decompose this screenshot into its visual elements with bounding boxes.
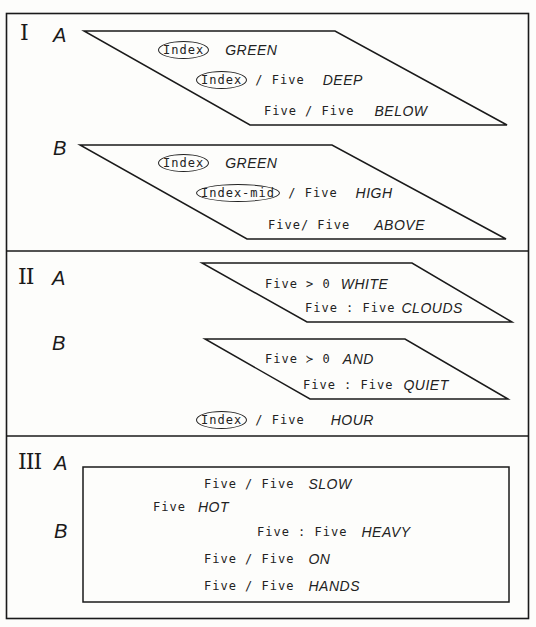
- line-I-B-1: Index GREEN: [158, 153, 277, 173]
- line-III-3: Five : Five HEAVY: [257, 522, 411, 542]
- group-label-I-A: A: [53, 24, 66, 46]
- ratio-text: Five : Five: [303, 378, 393, 392]
- single-text: Five: [153, 500, 186, 514]
- line-II-B-1: Five ≻ 0 AND: [265, 349, 374, 369]
- fraction-text: Five / Five: [204, 477, 294, 491]
- comparison-text: Five > 0: [265, 277, 331, 291]
- fraction-text: / Five: [247, 413, 305, 427]
- word-high: HIGH: [356, 185, 393, 201]
- line-III-4: Five / Five ON: [204, 549, 330, 569]
- line-III-2: Five HOT: [153, 497, 229, 517]
- group-label-II-B: B: [52, 332, 65, 354]
- group-label-II-A: A: [52, 267, 65, 289]
- line-III-1: Five / Five SLOW: [204, 474, 352, 494]
- fraction-text: / Five: [247, 73, 305, 87]
- fraction-text: Five / Five: [204, 552, 294, 566]
- word-deep: DEEP: [323, 72, 363, 88]
- word-clouds: CLOUDS: [401, 300, 462, 316]
- word-hot: HOT: [198, 499, 229, 515]
- section-numeral-II: II: [18, 266, 33, 288]
- circled-index: Index: [158, 41, 209, 59]
- diagram-canvas: I A Index GREEN Index / Five DEEP Five /…: [0, 0, 536, 627]
- word-on: ON: [308, 551, 330, 567]
- line-II-A-1: Five > 0 WHITE: [265, 274, 388, 294]
- fraction-text: Five / Five: [264, 104, 354, 118]
- word-green: GREEN: [225, 155, 277, 171]
- line-I-B-2: Index-mid / Five HIGH: [196, 183, 393, 203]
- ratio-text: Five : Five: [305, 301, 395, 315]
- fraction-text: / Five: [280, 186, 338, 200]
- circled-index-mid: Index-mid: [196, 184, 280, 202]
- fraction-text: Five/ Five: [268, 218, 350, 232]
- line-I-A-1: Index GREEN: [158, 40, 277, 60]
- word-hour: HOUR: [331, 412, 374, 428]
- line-II-B-2: Five : Five QUIET: [303, 375, 449, 395]
- line-III-5: Five / Five HANDS: [204, 576, 360, 596]
- line-I-A-2: Index / Five DEEP: [196, 70, 363, 90]
- word-heavy: HEAVY: [361, 524, 410, 540]
- section-numeral-I: I: [20, 22, 28, 44]
- word-quiet: QUIET: [403, 377, 448, 393]
- group-label-I-B: B: [53, 137, 66, 159]
- ratio-text: Five : Five: [257, 525, 347, 539]
- line-II-A-2: Five : Five CLOUDS: [305, 298, 463, 318]
- section-numeral-III: III: [18, 451, 41, 473]
- word-slow: SLOW: [308, 476, 351, 492]
- circled-index: Index: [158, 154, 209, 172]
- word-green: GREEN: [225, 42, 277, 58]
- fraction-text: Five / Five: [204, 579, 294, 593]
- circled-index: Index: [196, 71, 247, 89]
- word-below: BELOW: [374, 103, 427, 119]
- line-I-A-3: Five / Five BELOW: [264, 101, 428, 121]
- word-white: WHITE: [341, 276, 389, 292]
- word-above: ABOVE: [374, 217, 425, 233]
- group-label-III-B: B: [54, 520, 67, 542]
- line-I-B-3: Five/ Five ABOVE: [268, 215, 425, 235]
- word-hands: HANDS: [308, 578, 360, 594]
- circled-index: Index: [196, 411, 247, 429]
- line-II-hour: Index / Five HOUR: [196, 410, 374, 430]
- comparison-text: Five ≻ 0: [265, 352, 331, 366]
- word-and: AND: [343, 351, 374, 367]
- group-label-III-A: A: [54, 452, 67, 474]
